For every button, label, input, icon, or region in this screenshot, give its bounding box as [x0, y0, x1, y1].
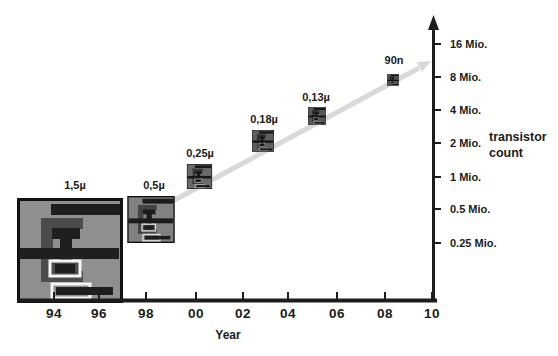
y-tick-label-8mio: 8 Mio.: [450, 71, 481, 83]
x-tick-label-02: 02: [235, 307, 251, 322]
node-label-0-5u: 0,5µ: [143, 179, 165, 191]
chip-image-1-5u: [19, 200, 122, 302]
x-axis-title: Year: [215, 329, 240, 342]
x-tick-label-06: 06: [329, 307, 345, 322]
x-tick-label-08: 08: [377, 307, 393, 322]
node-label-90n: 90n: [385, 54, 404, 66]
node-label-0-25u: 0,25µ: [186, 147, 214, 159]
x-tick-label-10: 10: [424, 307, 440, 322]
y-tick-label-1mio: 1 Mio.: [450, 171, 481, 183]
chip-image-0-18u: [252, 130, 273, 151]
y-axis: [428, 15, 441, 302]
y-tick-label-025mio: 0.25 Mio.: [450, 237, 496, 249]
x-tick-label-94: 94: [46, 307, 62, 322]
x-tick-label-96: 96: [91, 307, 107, 322]
node-label-1-5u: 1,5µ: [64, 179, 86, 191]
node-label-0-18u: 0,18µ: [250, 113, 278, 125]
y-tick-label-2mio: 2 Mio.: [450, 137, 481, 149]
y-axis-arrow-head: [428, 15, 439, 30]
x-tick-label-04: 04: [280, 307, 296, 322]
chip-image-90n: [387, 74, 399, 86]
y-tick-label-05mio: 0.5 Mio.: [450, 203, 490, 215]
x-tick-label-98: 98: [138, 307, 154, 322]
chip-image-0-5u: [128, 197, 174, 243]
chip-image-0-25u: [187, 164, 212, 188]
x-tick-label-00: 00: [188, 307, 204, 322]
y-axis-title: transistor count: [489, 130, 558, 161]
moores-law-chart: 1,5µ 0,5µ 0,25µ 0,18µ 0,13µ 90n 94 96 98…: [0, 0, 558, 356]
y-tick-label-16mio: 16 Mio.: [450, 38, 487, 50]
chip-image-0-13u: [308, 107, 325, 124]
node-label-0-13u: 0,13µ: [302, 91, 330, 103]
y-tick-label-4mio: 4 Mio.: [450, 104, 481, 116]
